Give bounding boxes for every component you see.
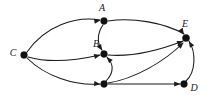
arrowhead-f-to-b xyxy=(107,57,113,63)
node-label-c: C xyxy=(10,47,17,58)
node-label-d: D xyxy=(189,82,198,93)
node-label-a: A xyxy=(98,2,106,13)
edge-f-to-e xyxy=(108,43,183,83)
node-unlabeled-f xyxy=(101,81,108,88)
node-e xyxy=(182,34,189,41)
arrowhead-f-to-d xyxy=(174,82,180,87)
node-label-b: B xyxy=(93,38,99,49)
arrowhead-d-to-e xyxy=(189,41,194,48)
node-labels-layer: CABED xyxy=(10,2,199,93)
node-label-e: E xyxy=(181,18,188,29)
graph-canvas: CABED xyxy=(0,0,207,101)
edge-c-to-f xyxy=(27,58,100,84)
node-d xyxy=(181,81,188,88)
edges-layer xyxy=(27,19,194,84)
node-b xyxy=(101,51,108,58)
edge-a-to-e xyxy=(108,20,184,34)
edge-c-to-a xyxy=(27,19,100,52)
edge-c-to-b xyxy=(28,55,100,61)
node-a xyxy=(101,18,108,25)
node-c xyxy=(21,52,28,59)
nodes-layer xyxy=(21,18,190,88)
directed-graph-figure: CABED xyxy=(0,0,207,101)
